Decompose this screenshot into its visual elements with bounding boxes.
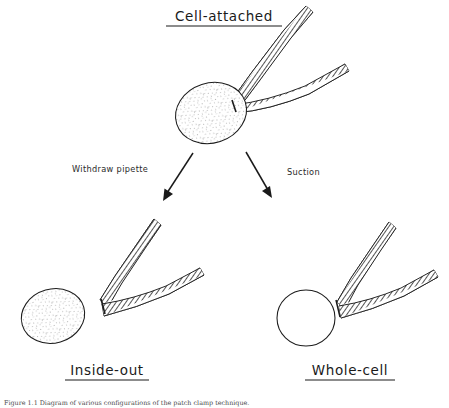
cell-body-whole-cell — [277, 290, 335, 346]
transition-withdraw-pipette: Withdraw pipette — [72, 153, 193, 201]
figure-caption: Figure 1.1 Diagram of various configurat… — [4, 399, 249, 407]
arrow-label-suction: Suction — [287, 167, 320, 177]
panel-title-inside-out: Inside-out — [70, 362, 143, 378]
panel-whole-cell: Whole-cell — [277, 215, 447, 380]
arrow-line-withdraw-pipette — [167, 153, 193, 193]
transition-suction: Suction — [246, 152, 320, 198]
arrow-label-withdraw-pipette: Withdraw pipette — [72, 164, 148, 174]
cell-body-cell-attached — [167, 73, 254, 152]
panel-inside-out: Inside-out — [15, 212, 212, 380]
panel-title-whole-cell: Whole-cell — [312, 362, 388, 378]
cell-body-inside-out — [15, 281, 91, 351]
figure-canvas: Cell-attached Withdraw pipette Suction — [0, 0, 449, 408]
panel-cell-attached: Cell-attached — [166, 0, 360, 153]
arrow-line-suction — [246, 152, 268, 190]
patch-clamp-figure: Cell-attached Withdraw pipette Suction — [0, 0, 449, 408]
panel-title-cell-attached: Cell-attached — [175, 8, 273, 24]
